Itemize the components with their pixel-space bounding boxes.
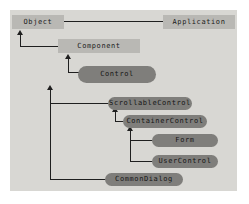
node-containercontrol-label: ContainerControl: [126, 118, 203, 125]
node-commondialog-label: CommonDialog: [115, 176, 173, 183]
edge-commondialog-to-control-h: [50, 179, 113, 180]
edge-component-to-object-arrowhead: [17, 30, 23, 35]
node-usercontrol[interactable]: UserControl: [152, 155, 218, 168]
node-form-label: Form: [175, 137, 194, 144]
edge-component-to-object-v: [20, 35, 21, 46]
node-object-label: Object: [24, 19, 53, 26]
diagram-canvas: Object Application Component Control Scr…: [10, 10, 237, 191]
node-component-label: Component: [77, 43, 120, 50]
node-component[interactable]: Component: [58, 39, 140, 53]
edge-scrollablecontrol-to-control-h: [50, 103, 112, 104]
node-object[interactable]: Object: [12, 15, 64, 29]
node-scrollablecontrol[interactable]: ScrollableControl: [108, 97, 192, 110]
node-containercontrol[interactable]: ContainerControl: [123, 115, 207, 128]
node-control-label: Control: [100, 71, 134, 78]
edge-usercontrol-to-containercontrol-v: [130, 131, 131, 161]
edge-application-to-object-line: [57, 21, 163, 22]
node-form[interactable]: Form: [152, 134, 218, 147]
node-application-label: Application: [173, 19, 226, 26]
node-scrollablecontrol-label: ScrollableControl: [109, 100, 191, 107]
edge-commondialog-to-control-v: [50, 90, 51, 179]
edge-control-to-component-v: [68, 59, 69, 72]
node-commondialog[interactable]: CommonDialog: [105, 173, 183, 186]
node-control[interactable]: Control: [78, 66, 156, 83]
edge-containercontrol-to-scrollablecontrol-v: [115, 112, 116, 121]
node-application[interactable]: Application: [163, 15, 235, 29]
edge-component-to-object-h: [20, 46, 60, 47]
diagram-page: Object Application Component Control Scr…: [0, 0, 249, 204]
node-usercontrol-label: UserControl: [159, 158, 212, 165]
edge-control-to-component-arrowhead: [65, 54, 71, 59]
